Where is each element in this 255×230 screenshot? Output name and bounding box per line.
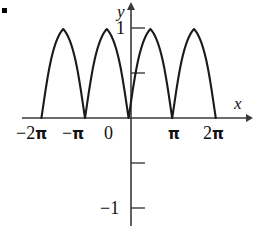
x-tick-2pi-number: 2 [203, 123, 212, 143]
x-tick-negative-2pi-pi: π [35, 125, 47, 143]
x-tick-label-negative-2pi: −2π [16, 124, 47, 142]
figure-canvas: y x 1 −1 −2π −π 0 π 2π [0, 0, 255, 230]
x-tick-label-pi: π [168, 124, 180, 142]
x-tick-label-2pi: 2π [203, 124, 224, 142]
curve-abs-sin [41, 29, 215, 118]
x-tick-negative-2pi-number: 2 [26, 123, 35, 143]
x-tick-2pi-pi: π [212, 125, 224, 143]
x-tick-negative-pi-minus: − [62, 123, 72, 143]
plot-area [0, 0, 255, 230]
y-axis-arrowhead [127, 2, 135, 10]
x-tick-zero-number: 0 [104, 123, 113, 143]
x-axis [22, 114, 253, 122]
y-tick-label-1: 1 [116, 19, 125, 37]
x-tick-label-negative-pi: −π [62, 124, 84, 142]
x-axis-label: x [234, 95, 242, 112]
x-tick-negative-pi-pi: π [72, 125, 84, 143]
x-tick-label-zero: 0 [104, 124, 113, 142]
curve-path [41, 29, 215, 118]
x-axis-arrowhead [246, 114, 253, 122]
x-tick-pi-pi: π [168, 125, 180, 143]
x-tick-negative-2pi-minus: − [16, 123, 26, 143]
y-tick-label-negative-1: −1 [100, 199, 119, 217]
